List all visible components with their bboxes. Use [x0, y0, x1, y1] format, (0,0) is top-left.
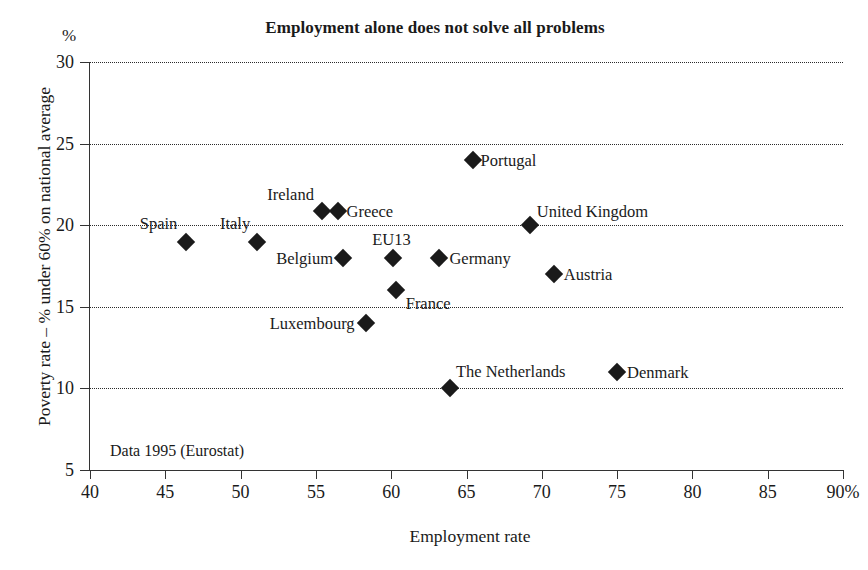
x-axis-tick-label: 65 — [437, 482, 497, 502]
data-point-label: Greece — [346, 202, 393, 219]
data-point-label: Portugal — [481, 151, 537, 168]
data-point-label: Belgium — [276, 249, 333, 266]
x-axis-tick — [617, 470, 618, 479]
x-axis-tick-label: 60 — [361, 482, 421, 502]
y-axis-tick — [80, 225, 90, 226]
data-point-label: Denmark — [627, 364, 688, 381]
x-axis-tick-label: 75 — [587, 482, 647, 502]
y-axis-tick — [80, 62, 90, 63]
x-axis-tick-label: 70 — [512, 482, 572, 502]
data-point-label: Spain — [140, 214, 178, 231]
data-point-label: Italy — [220, 214, 250, 231]
x-axis-tick — [542, 470, 543, 479]
x-axis-title: Employment rate — [290, 526, 650, 547]
x-axis-tick — [843, 470, 844, 479]
x-axis-tick — [391, 470, 392, 479]
data-point-label: France — [406, 295, 451, 312]
x-axis-tick — [768, 470, 769, 479]
y-axis-tick-label: 15 — [28, 298, 74, 316]
y-axis-tick — [80, 470, 90, 471]
y-axis-tick — [80, 307, 90, 308]
y-axis-tick — [80, 388, 90, 389]
x-axis-tick-label: 90% — [813, 482, 868, 502]
y-axis-unit-label: % — [62, 26, 76, 46]
x-axis-tick — [90, 470, 91, 479]
x-axis-tick — [692, 470, 693, 479]
x-axis-tick-label: 55 — [286, 482, 346, 502]
data-point-label: Ireland — [267, 185, 314, 202]
x-axis-tick — [467, 470, 468, 479]
y-axis-title: Poverty rate – % under 60% on national a… — [34, 27, 55, 487]
y-axis-tick-label: 25 — [28, 135, 74, 153]
page-title: Employment alone does not solve all prob… — [140, 18, 730, 38]
data-point-label: Austria — [564, 266, 613, 283]
x-axis-tick — [165, 470, 166, 479]
y-axis-tick — [80, 144, 90, 145]
y-axis-tick-label: 30 — [28, 53, 74, 71]
x-axis-tick-label: 80 — [662, 482, 722, 502]
x-axis-tick-label: 50 — [211, 482, 271, 502]
x-axis-tick — [241, 470, 242, 479]
y-axis-tick-label: 10 — [28, 379, 74, 397]
x-axis-tick — [316, 470, 317, 479]
x-axis-tick-label: 40 — [60, 482, 120, 502]
data-point-label: Germany — [449, 249, 510, 266]
y-axis-tick-label: 5 — [28, 461, 74, 479]
data-point-label: Luxembourg — [270, 315, 355, 332]
chart-figure: Employment alone does not solve all prob… — [0, 0, 868, 570]
x-axis-tick-label: 45 — [135, 482, 195, 502]
y-axis-tick-label: 20 — [28, 216, 74, 234]
x-axis-tick-label: 85 — [738, 482, 798, 502]
data-point-label: EU13 — [372, 230, 411, 247]
data-point-label: United Kingdom — [537, 203, 648, 220]
data-point-label: The Netherlands — [456, 363, 566, 380]
